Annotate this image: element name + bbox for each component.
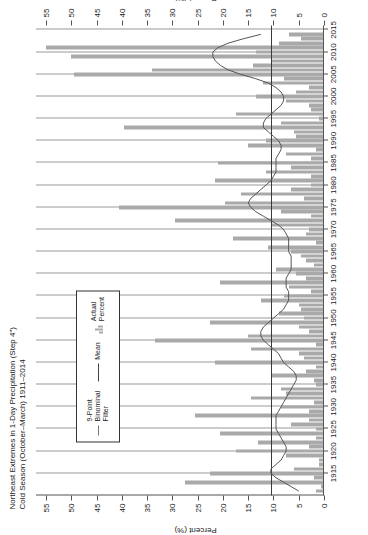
- y-axis-tick: [147, 20, 148, 25]
- legend-label-mean: Mean: [94, 342, 102, 360]
- x-axis-tick-label: 1950: [329, 309, 338, 327]
- x-axis-tick-label: 1935: [329, 375, 338, 393]
- y-axis-tick-label: 45: [92, 8, 101, 17]
- x-axis-tick-label: 1915: [329, 464, 338, 482]
- y-axis-tick: [71, 20, 72, 25]
- chart-title-line-1: Northeast Extremes in 1-Day Precipitatio…: [8, 327, 18, 509]
- x-axis-tick: [324, 206, 328, 207]
- x-axis-tick-label: 1980: [329, 176, 338, 194]
- x-axis-tick: [324, 117, 328, 118]
- x-axis-tick-label: 2005: [329, 65, 338, 83]
- y-axis-tick-label: 15: [244, 503, 253, 512]
- x-axis-tick-label: 1995: [329, 109, 338, 127]
- chart-root: Northeast Extremes in 1-Day Precipitatio…: [0, 0, 368, 535]
- legend-label-binomial-filter: 9-Point Binominal Filter: [86, 390, 110, 421]
- y-axis-line: [36, 494, 324, 495]
- chart-title: Northeast Extremes in 1-Day Precipitatio…: [8, 327, 28, 509]
- x-axis-tick: [324, 51, 328, 52]
- y-axis-tick: [273, 20, 274, 25]
- y-axis-tick: [46, 20, 47, 25]
- y-axis-tick-label: 30: [168, 503, 177, 512]
- x-axis-tick: [324, 472, 328, 473]
- y-axis-tick: [248, 20, 249, 25]
- y-axis-tick: [248, 495, 249, 500]
- x-axis-tick: [324, 272, 328, 273]
- x-axis-tick: [324, 317, 328, 318]
- y-axis-tick: [97, 495, 98, 500]
- legend-label-actual-percent-l2: Percent: [98, 297, 105, 321]
- y-axis-tick-label: 50: [67, 503, 76, 512]
- y-axis-tick-label: 55: [42, 503, 51, 512]
- y-axis-tick: [172, 20, 173, 25]
- y-axis-tick-label: 5: [294, 503, 303, 507]
- bar-swatch-icon: [94, 325, 103, 333]
- y-axis-tick-label: 10: [269, 503, 278, 512]
- chart-title-line-2: Cold Season (October–March) 1911–2014: [18, 327, 28, 509]
- y-axis-tick-label: 25: [193, 8, 202, 17]
- x-axis-tick-label: 1985: [329, 154, 338, 172]
- y-axis-tick: [122, 20, 123, 25]
- x-axis-tick: [324, 450, 328, 451]
- x-axis-tick: [324, 383, 328, 384]
- y-axis-tick-label: 35: [143, 8, 152, 17]
- x-axis-tick-label: 2000: [329, 87, 338, 105]
- x-axis-tick: [324, 73, 328, 74]
- x-axis-tick-label: 1920: [329, 442, 338, 460]
- x-axis-tick: [324, 405, 328, 406]
- x-axis-tick: [324, 339, 328, 340]
- y-axis-tick: [299, 20, 300, 25]
- x-axis-tick-label: 2015: [329, 21, 338, 39]
- y-axis-tick: [122, 495, 123, 500]
- y-axis-tick: [46, 495, 47, 500]
- x-axis-tick: [324, 428, 328, 429]
- y-axis-tick-label: 20: [218, 503, 227, 512]
- legend-item-mean: Mean: [94, 342, 102, 382]
- legend-item-actual-percent: Actual Percent: [90, 297, 106, 333]
- x-axis-tick-label: 1965: [329, 242, 338, 260]
- y-axis-tick-label: 20: [218, 8, 227, 17]
- y-axis-tick: [223, 495, 224, 500]
- y-axis-tick: [198, 20, 199, 25]
- y-axis-tick-label: 0: [320, 13, 329, 17]
- y-axis-tick-label: 40: [117, 503, 126, 512]
- x-axis-tick: [324, 28, 328, 29]
- x-axis-tick-label: 1955: [329, 287, 338, 305]
- chart-legend: 9-Point Binominal Filter Mean Actual Per…: [76, 290, 120, 442]
- x-axis-tick-label: 1925: [329, 420, 338, 438]
- legend-label-actual-percent: Actual Percent: [90, 297, 106, 321]
- legend-label-actual-percent-l1: Actual: [90, 301, 97, 320]
- y-axis-tick: [147, 495, 148, 500]
- x-axis-tick: [324, 95, 328, 96]
- y-axis-tick: [71, 495, 72, 500]
- y-axis-tick: [299, 495, 300, 500]
- x-axis-tick-label: 1960: [329, 264, 338, 282]
- legend-label-binomial-filter-l3: Filter: [102, 405, 109, 421]
- y-axis-tick-label: 40: [117, 8, 126, 17]
- y-axis-tick-label: 0: [320, 503, 329, 507]
- legend-item-binomial-filter: 9-Point Binominal Filter: [86, 390, 110, 435]
- y-axis-label-left: Percent (%): [175, 525, 217, 534]
- y-axis-tick: [172, 495, 173, 500]
- y-axis-tick: [324, 20, 325, 25]
- mean-line-swatch-icon: [98, 363, 99, 381]
- x-axis-tick-label: 1970: [329, 220, 338, 238]
- x-axis-tick: [324, 294, 328, 295]
- chart-canvas: Northeast Extremes in 1-Day Precipitatio…: [0, 0, 368, 535]
- y-axis-tick: [97, 20, 98, 25]
- x-axis-tick: [324, 361, 328, 362]
- x-axis-tick: [324, 184, 328, 185]
- y-axis-label-right: Percent (%): [175, 0, 217, 2]
- y-axis-tick-label: 15: [244, 8, 253, 17]
- y-axis-tick-label: 50: [67, 8, 76, 17]
- x-axis-tick-label: 1990: [329, 131, 338, 149]
- y-axis-tick: [223, 20, 224, 25]
- y-axis-tick: [324, 495, 325, 500]
- y-axis-tick-label: 5: [294, 13, 303, 17]
- x-axis-tick: [324, 139, 328, 140]
- legend-label-binomial-filter-l1: 9-Point: [86, 399, 93, 421]
- y-axis-tick-label: 25: [193, 503, 202, 512]
- y-axis-tick-label: 30: [168, 8, 177, 17]
- y-axis-tick-label: 45: [92, 503, 101, 512]
- x-axis-tick-label: 1975: [329, 198, 338, 216]
- x-axis-tick: [324, 250, 328, 251]
